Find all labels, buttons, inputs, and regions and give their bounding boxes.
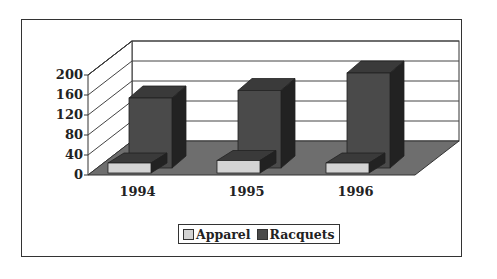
y-tick-label: 40 <box>65 147 83 162</box>
chart-legend: Apparel Racquets <box>178 224 340 244</box>
legend-label-apparel: Apparel <box>196 227 251 242</box>
bar-apparel-1995-front <box>217 161 260 174</box>
y-tick-label: 160 <box>56 87 83 102</box>
legend-item-apparel: Apparel <box>183 227 251 242</box>
bar-apparel-1994-front <box>108 163 151 173</box>
legend-swatch-racquets <box>257 229 268 240</box>
legend-item-racquets: Racquets <box>257 227 335 242</box>
x-tick-label: 1994 <box>119 184 155 199</box>
legend-label-racquets: Racquets <box>270 227 335 242</box>
y-tick-label: 0 <box>74 167 83 182</box>
y-tick-label: 120 <box>56 107 83 122</box>
bar-apparel-1996-front <box>326 163 369 173</box>
bar-racquets-1994-side <box>172 86 186 168</box>
bar-racquets-1996-side <box>390 61 404 168</box>
bar-racquets-1995-side <box>281 79 295 169</box>
x-tick-label: 1996 <box>337 184 373 199</box>
y-tick-label: 200 <box>56 67 83 82</box>
x-tick-label: 1995 <box>228 184 264 199</box>
y-tick-label: 80 <box>65 127 83 142</box>
legend-swatch-apparel <box>183 229 194 240</box>
